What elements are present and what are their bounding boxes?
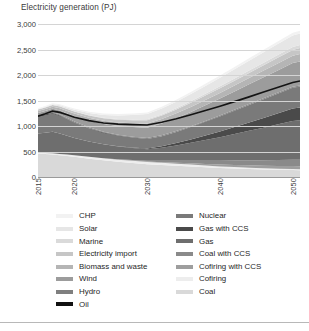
x-axis-tick-label: 2020	[70, 178, 79, 195]
legend-item-label: Hydro	[79, 288, 100, 296]
legend-swatch-icon	[176, 252, 193, 256]
y-axis-tick-label: 2,000	[2, 71, 36, 80]
legend-swatch-icon	[56, 239, 73, 243]
x-axis-tick-label: 2030	[143, 178, 152, 195]
y-axis-tick-label: 2,500	[2, 45, 36, 54]
legend-item[interactable]: Wind	[56, 273, 147, 286]
legend-swatch-icon	[56, 214, 73, 218]
chart-title: Electricity generation (PJ)	[21, 3, 117, 12]
x-axis-tick-label: 2015	[34, 178, 43, 195]
legend-item-label: Coal	[199, 288, 215, 296]
legend-item-label: Marine	[79, 238, 103, 246]
legend-swatch-icon	[176, 290, 193, 294]
legend-swatch-icon	[56, 252, 73, 256]
gridline	[38, 152, 300, 153]
legend-item-label: CHP	[79, 212, 96, 220]
legend-item[interactable]: Oil	[56, 298, 147, 311]
plot-wrapper: 05001,0001,5002,0002,5003,000	[0, 18, 309, 184]
legend-item[interactable]: Biomass and waste	[56, 260, 147, 273]
chart-legend: CHPSolarMarineElectricity importBiomass …	[0, 210, 309, 318]
legend-item-label: Wind	[79, 275, 97, 283]
legend-item[interactable]: Gas	[176, 235, 261, 248]
electricity-generation-chart: Electricity generation (PJ) 05001,0001,5…	[0, 0, 309, 331]
legend-swatch-icon	[176, 277, 193, 281]
legend-column-left: CHPSolarMarineElectricity importBiomass …	[56, 210, 147, 311]
legend-swatch-icon	[56, 277, 73, 281]
legend-item-label: Gas with CCS	[199, 225, 249, 233]
bottom-divider	[0, 322, 309, 323]
legend-item[interactable]: Nuclear	[176, 210, 261, 223]
legend-item[interactable]: Electricity import	[56, 248, 147, 261]
legend-swatch-icon	[56, 265, 73, 269]
y-axis: 05001,0001,5002,0002,5003,000	[0, 24, 36, 177]
y-axis-tick-label: 1,000	[2, 122, 36, 131]
y-axis-tick-label: 0	[2, 173, 36, 182]
legend-item[interactable]: Coal with CCS	[176, 248, 261, 261]
legend-item[interactable]: Hydro	[56, 286, 147, 299]
legend-item[interactable]: Marine	[56, 235, 147, 248]
legend-swatch-icon	[176, 265, 193, 269]
legend-item[interactable]: Solar	[56, 223, 147, 236]
legend-swatch-icon	[176, 239, 193, 243]
x-axis: 20152020203020402050	[38, 178, 300, 208]
legend-item[interactable]: CHP	[56, 210, 147, 223]
legend-swatch-icon	[176, 214, 193, 218]
legend-item-label: Cofiring	[199, 275, 226, 283]
legend-swatch-icon	[56, 302, 73, 306]
legend-item-label: Cofiring with CCS	[199, 263, 261, 271]
legend-item-label: Solar	[79, 225, 97, 233]
legend-item[interactable]: Gas with CCS	[176, 223, 261, 236]
legend-item-label: Gas	[199, 238, 213, 246]
x-axis-tick-label: 2040	[216, 178, 225, 195]
legend-item-label: Oil	[79, 301, 89, 309]
legend-item[interactable]: Coal	[176, 286, 261, 299]
x-axis-tick-label: 2050	[289, 178, 298, 195]
y-axis-tick-label: 3,000	[2, 20, 36, 29]
legend-item[interactable]: Cofiring	[176, 273, 261, 286]
y-axis-tick-label: 500	[2, 147, 36, 156]
y-axis-tick-label: 1,500	[2, 96, 36, 105]
gridline	[38, 75, 300, 76]
legend-swatch-icon	[176, 227, 193, 231]
legend-column-right: NuclearGas with CCSGasCoal with CCSCofir…	[176, 210, 261, 298]
legend-item-label: Coal with CCS	[199, 250, 250, 258]
legend-item-label: Biomass and waste	[79, 263, 147, 271]
legend-item-label: Electricity import	[79, 250, 137, 258]
legend-item[interactable]: Cofiring with CCS	[176, 260, 261, 273]
gridline	[38, 101, 300, 102]
legend-swatch-icon	[56, 227, 73, 231]
legend-item-label: Nuclear	[199, 212, 226, 220]
legend-swatch-icon	[56, 290, 73, 294]
gridline	[38, 126, 300, 127]
gridline	[38, 24, 300, 25]
gridline	[38, 50, 300, 51]
